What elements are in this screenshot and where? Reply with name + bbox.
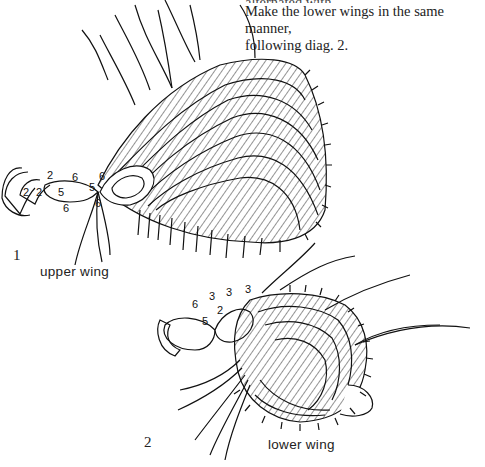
upper-wing-diagram bbox=[2, 0, 332, 265]
stitch-count: 2 bbox=[217, 304, 223, 316]
figure-1-label: upper wing bbox=[40, 264, 109, 279]
stitch-count: 6 bbox=[95, 197, 101, 209]
stitch-count: 2 bbox=[36, 186, 42, 198]
stitch-count: 6 bbox=[192, 298, 198, 310]
stitch-count: 3 bbox=[245, 283, 251, 295]
figure-1-number: 1 bbox=[13, 247, 21, 264]
stitch-count: 5 bbox=[202, 315, 208, 327]
stitch-count: 2 bbox=[47, 169, 53, 181]
lower-wing-diagram bbox=[158, 243, 470, 460]
stitch-count: 6 bbox=[99, 170, 105, 182]
stitch-count: 5 bbox=[89, 181, 95, 193]
figure-2-label: lower wing bbox=[268, 437, 335, 452]
wing-diagrams: 2 2 2 6 5 5 6 6 6 6 3 3 3 bbox=[0, 0, 485, 467]
stitch-count: 6 bbox=[72, 171, 78, 183]
stitch-count: 6 bbox=[63, 202, 69, 214]
stitch-count: 3 bbox=[226, 286, 232, 298]
stitch-count: 2 bbox=[23, 186, 29, 198]
stitch-count: 5 bbox=[58, 186, 64, 198]
figure-2-number: 2 bbox=[144, 434, 152, 451]
stitch-count: 3 bbox=[209, 290, 215, 302]
